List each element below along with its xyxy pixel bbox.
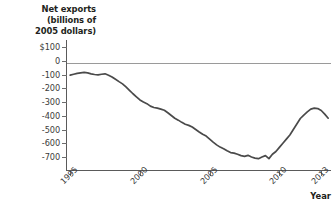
- x-axis-title: Year: [310, 191, 331, 201]
- net-exports-line: [70, 72, 328, 158]
- chart-root: Net exports (billions of 2005 dollars) $…: [0, 0, 333, 202]
- series-svg: [0, 0, 333, 202]
